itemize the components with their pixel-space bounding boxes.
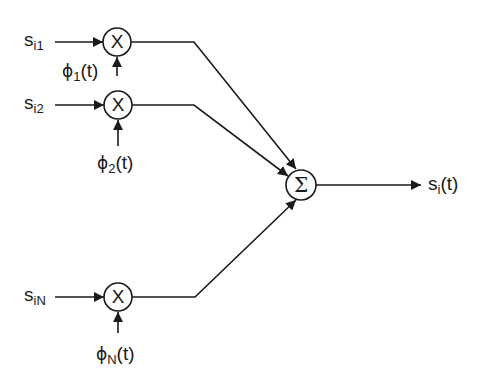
multiply-symbol-N: X [104, 283, 132, 311]
basis-label-1-suffix: (t) [80, 60, 98, 81]
basis-label-N-sub: N [107, 352, 116, 367]
basis-label-2: ϕ2(t) [97, 153, 133, 175]
basis-label-N-suffix: (t) [117, 343, 135, 364]
sum-symbol: Σ [286, 170, 316, 200]
input-label-N-base: s [24, 284, 34, 305]
basis-label-N-base: ϕ [96, 344, 107, 364]
input-label-1-base: s [24, 29, 34, 50]
basis-label-2-suffix: (t) [115, 152, 133, 173]
multiply-symbol-1: X [103, 28, 131, 56]
basis-label-1-base: ϕ [62, 61, 73, 81]
output-label-suffix: (t) [440, 173, 458, 194]
input-label-2: si2 [24, 93, 44, 115]
basis-label-N: ϕN(t) [96, 344, 135, 366]
input-label-1: si1 [24, 30, 44, 52]
basis-label-2-base: ϕ [97, 153, 108, 173]
input-label-N-sub: iN [34, 293, 46, 308]
input-label-N: siN [24, 285, 46, 307]
output-label: si(t) [428, 174, 458, 196]
input-label-2-sub: i2 [34, 101, 44, 116]
signal-diagram [0, 0, 483, 384]
input-label-1-sub: i1 [34, 38, 44, 53]
input-label-2-base: s [24, 92, 34, 113]
basis-label-1: ϕ1(t) [62, 61, 98, 83]
multiply-symbol-2: X [104, 91, 132, 119]
output-label-base: s [428, 173, 438, 194]
connector-2-to-sum [132, 105, 288, 176]
connector-N-to-sum [132, 200, 296, 297]
